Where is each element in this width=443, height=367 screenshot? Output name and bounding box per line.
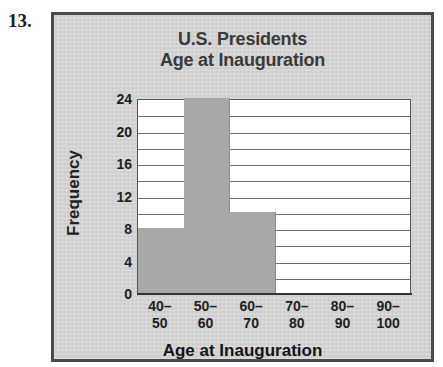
x-tick-label: 80–90 bbox=[320, 298, 366, 332]
x-tick-label-line: 80 bbox=[274, 315, 320, 332]
x-axis-label: Age at Inauguration bbox=[54, 341, 431, 361]
worksheet-page: 13. U.S. Presidents Age at Inauguration … bbox=[0, 0, 443, 367]
x-tick-label: 40–50 bbox=[137, 298, 183, 332]
chart-title-line1: U.S. Presidents bbox=[178, 29, 307, 49]
x-tick-label: 70–80 bbox=[274, 298, 320, 332]
x-tick-label-line: 50 bbox=[137, 315, 183, 332]
y-tick-label: 0 bbox=[124, 286, 132, 302]
x-tick-label-line: 50– bbox=[183, 298, 229, 315]
x-tick-label-line: 40– bbox=[137, 298, 183, 315]
y-tick-label: 24 bbox=[116, 91, 132, 107]
x-axis-line bbox=[137, 293, 412, 295]
bar bbox=[184, 98, 231, 293]
x-tick-label-line: 80– bbox=[320, 298, 366, 315]
plot-area bbox=[137, 99, 411, 294]
bars-group bbox=[138, 100, 410, 293]
x-tick-label-line: 70 bbox=[228, 315, 274, 332]
x-tick-label-line: 90– bbox=[365, 298, 411, 315]
x-tick-label-line: 90 bbox=[320, 315, 366, 332]
x-tick-label-line: 60– bbox=[228, 298, 274, 315]
y-axis-tick-labels: 04812162024 bbox=[94, 99, 132, 294]
x-tick-label: 60–70 bbox=[228, 298, 274, 332]
chart-title: U.S. Presidents Age at Inauguration bbox=[54, 29, 431, 71]
x-tick-label: 90–100 bbox=[365, 298, 411, 332]
bar bbox=[138, 228, 185, 293]
chart-title-line2: Age at Inauguration bbox=[54, 50, 431, 71]
y-tick-label: 12 bbox=[116, 189, 132, 205]
bar bbox=[229, 212, 276, 293]
y-tick-label: 16 bbox=[116, 156, 132, 172]
problem-number: 13. bbox=[8, 10, 32, 32]
y-tick-label: 20 bbox=[116, 124, 132, 140]
chart-panel: U.S. Presidents Age at Inauguration Freq… bbox=[51, 12, 434, 362]
y-axis-label: Frequency bbox=[64, 133, 84, 253]
x-tick-label-line: 70– bbox=[274, 298, 320, 315]
y-tick-label: 8 bbox=[124, 221, 132, 237]
x-tick-label-line: 60 bbox=[183, 315, 229, 332]
x-tick-label: 50–60 bbox=[183, 298, 229, 332]
x-axis-tick-labels: 40–5050–6060–7070–8080–9090–100 bbox=[137, 298, 411, 342]
y-tick-label: 4 bbox=[124, 254, 132, 270]
x-tick-label-line: 100 bbox=[365, 315, 411, 332]
